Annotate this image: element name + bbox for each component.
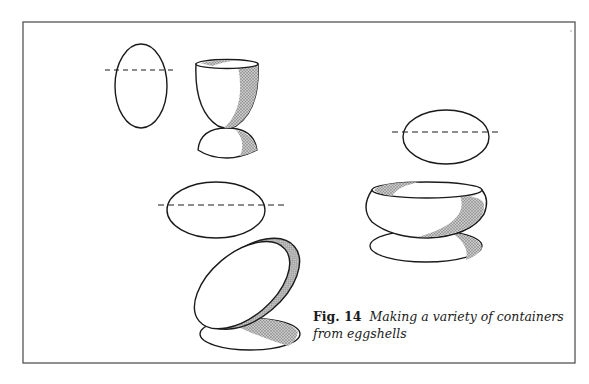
horizontal-egg-with-cut-line — [158, 182, 285, 238]
tilted-dish — [179, 219, 317, 350]
figure-caption: Fig. 14Making a variety of containers fr… — [313, 308, 575, 342]
figure-label: Fig. 14 — [313, 309, 361, 324]
upright-egg-with-cut-line — [105, 44, 176, 128]
sideways-egg-with-cut-line — [392, 110, 502, 164]
egg-cup — [196, 60, 258, 159]
bowl — [366, 182, 487, 262]
speck — [570, 30, 571, 31]
